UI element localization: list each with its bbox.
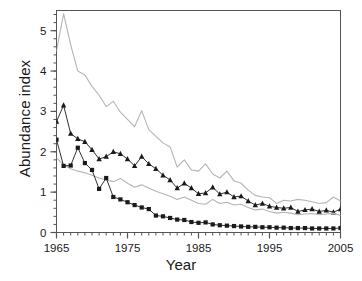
data-point-triangle: [189, 185, 194, 190]
data-point-square: [218, 223, 222, 227]
data-point-square: [253, 225, 257, 229]
data-point-triangle: [167, 177, 172, 182]
y-axis-label: Abundance index: [16, 29, 33, 209]
data-point-square: [175, 217, 179, 221]
data-point-square: [338, 226, 342, 230]
data-point-triangle: [203, 190, 208, 195]
data-point-triangle: [260, 200, 265, 205]
y-tick-label: 1: [40, 186, 46, 198]
data-point-triangle: [139, 154, 144, 159]
series-upper-index-triangles-: [54, 102, 343, 214]
data-point-square: [317, 226, 321, 230]
data-point-triangle: [238, 193, 243, 198]
x-tick-label: 1975: [115, 242, 141, 254]
data-point-square: [83, 161, 87, 165]
data-point-triangle: [224, 189, 229, 194]
data-point-triangle: [75, 136, 80, 141]
data-point-triangle: [288, 204, 293, 209]
data-point-triangle: [111, 149, 116, 154]
chart-plot-area: 01234519651975198519952005: [0, 0, 362, 281]
data-point-square: [111, 195, 115, 199]
axis-ticks: [51, 15, 341, 239]
x-tick-label: 1995: [257, 242, 283, 254]
x-tick-label: 1965: [44, 242, 70, 254]
data-point-square: [62, 164, 66, 168]
data-point-square: [147, 207, 151, 211]
data-point-square: [204, 220, 208, 224]
data-point-triangle: [309, 206, 314, 211]
data-series: [54, 14, 343, 231]
data-point-square: [182, 218, 186, 222]
data-point-square: [246, 225, 250, 229]
data-point-square: [275, 226, 279, 230]
series-lower-index-squares-: [54, 138, 342, 231]
y-tick-label: 5: [40, 25, 46, 37]
data-point-square: [133, 203, 137, 207]
data-point-square: [296, 226, 300, 230]
data-point-square: [289, 226, 293, 230]
series-line: [57, 14, 341, 204]
data-point-square: [104, 176, 108, 180]
data-point-square: [54, 138, 58, 142]
data-point-square: [76, 146, 80, 150]
data-point-square: [125, 200, 129, 204]
x-tick-label: 2005: [328, 242, 354, 254]
data-point-triangle: [246, 198, 251, 203]
data-point-square: [97, 187, 101, 191]
data-point-triangle: [182, 180, 187, 185]
data-point-square: [225, 224, 229, 228]
x-axis-label: Year: [0, 256, 362, 273]
x-tick-label: 1985: [186, 242, 212, 254]
data-point-square: [90, 168, 94, 172]
data-point-square: [189, 220, 193, 224]
data-point-square: [310, 226, 314, 230]
tick-labels: 01234519651975198519952005: [40, 25, 353, 254]
data-point-square: [196, 221, 200, 225]
data-point-square: [118, 197, 122, 201]
data-point-square: [168, 216, 172, 220]
y-tick-label: 4: [40, 65, 47, 77]
y-tick-label: 3: [40, 105, 46, 117]
data-point-triangle: [68, 131, 73, 136]
data-point-square: [140, 205, 144, 209]
series-upper-confidence-limit: [57, 14, 341, 204]
data-point-square: [260, 225, 264, 229]
data-point-triangle: [61, 102, 66, 107]
series-line: [57, 158, 341, 216]
data-point-square: [69, 163, 73, 167]
series-lower-confidence-limit: [57, 158, 341, 216]
data-point-square: [331, 226, 335, 230]
data-point-triangle: [338, 206, 343, 211]
data-point-square: [154, 213, 158, 217]
data-point-square: [161, 214, 165, 218]
data-point-square: [267, 225, 271, 229]
data-point-triangle: [125, 156, 130, 161]
data-point-triangle: [324, 207, 329, 212]
data-point-square: [232, 224, 236, 228]
data-point-triangle: [210, 184, 215, 189]
data-point-square: [282, 226, 286, 230]
data-point-square: [211, 222, 215, 226]
data-point-triangle: [153, 166, 158, 171]
y-tick-label: 0: [40, 227, 46, 239]
data-point-square: [303, 226, 307, 230]
data-point-square: [324, 226, 328, 230]
data-point-triangle: [104, 154, 109, 159]
y-tick-label: 2: [40, 146, 46, 158]
abundance-index-chart: 01234519651975198519952005 Abundance ind…: [0, 0, 362, 281]
data-point-square: [239, 224, 243, 228]
